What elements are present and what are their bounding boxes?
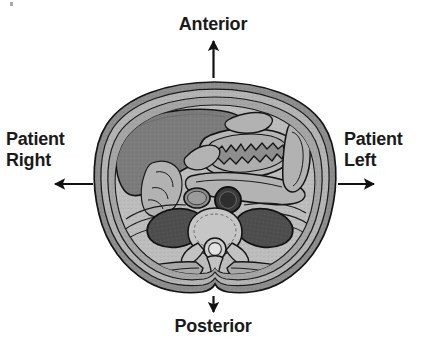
inferior-vena-cava [184, 188, 210, 208]
direction-label-posterior: Posterior [0, 316, 426, 337]
direction-label-anterior: Anterior [0, 14, 426, 35]
direction-label-patient-right: Patient Right [6, 129, 92, 171]
orientation-diagram [0, 0, 426, 350]
direction-label-patient-left: Patient Left [344, 129, 426, 171]
